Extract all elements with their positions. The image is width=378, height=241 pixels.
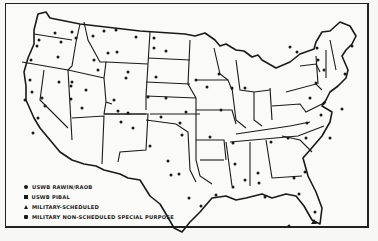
station-dot [304, 171, 307, 174]
station-dot [107, 52, 110, 55]
station-dot [315, 82, 318, 85]
station-dot [329, 137, 332, 140]
map-legend: USWB RAWIN/RAOB USWB PIBAL MILITARY-SCHE… [24, 182, 174, 222]
station-dot [200, 205, 203, 208]
station-dot [37, 117, 40, 120]
station-dot [71, 81, 74, 84]
station-dot [209, 136, 212, 139]
map-page: USWB RAWIN/RAOB USWB PIBAL MILITARY-SCHE… [0, 0, 378, 241]
station-dot [44, 105, 47, 108]
station-dot [287, 137, 290, 140]
circle-station-icon [24, 185, 28, 189]
station-dot [117, 110, 120, 113]
station-dot [323, 102, 326, 105]
station-dot [220, 109, 223, 112]
station-dot [41, 97, 44, 100]
station-dot [153, 47, 156, 50]
station-dot [153, 37, 156, 40]
station-dot [167, 160, 170, 163]
station-dot [127, 71, 130, 74]
station-dot [257, 172, 260, 175]
station-dot [206, 86, 209, 89]
station-dot [178, 173, 181, 176]
station-dot [258, 182, 261, 185]
station-dot [85, 89, 88, 92]
station-dot [132, 127, 135, 130]
station-dot [125, 77, 128, 80]
station-dot [135, 36, 138, 39]
station-dot [341, 108, 344, 111]
station-dot [351, 45, 354, 48]
station-dot [188, 197, 191, 200]
station-dot [31, 91, 34, 94]
legend-item-military-scheduled: MILITARY-SCHEDULED [24, 202, 174, 212]
station-dot [70, 85, 73, 88]
station-dot [231, 87, 234, 90]
station-dot [323, 69, 326, 72]
station-dot [58, 81, 61, 84]
station-dot [160, 116, 163, 119]
station-dot [179, 122, 182, 125]
station-dot [149, 145, 152, 148]
station-dot [116, 51, 119, 54]
station-dot [155, 76, 158, 79]
station-dot [103, 30, 106, 33]
station-dot [170, 174, 173, 177]
station-dot [115, 29, 118, 32]
hexagon-station-icon [24, 215, 28, 219]
station-dot [232, 186, 235, 189]
station-dot [232, 142, 235, 145]
legend-label: MILITARY-SCHEDULED [32, 202, 99, 212]
station-dot [305, 137, 308, 140]
station-dot [75, 37, 78, 40]
legend-label: USWB RAWIN/RAOB [32, 182, 92, 192]
station-dot [289, 46, 292, 49]
legend-label: MILITARY NON-SCHEDULED SPECIAL PURPOSE [32, 212, 174, 222]
station-dot [81, 107, 84, 110]
square-station-icon [24, 195, 28, 199]
station-dot [181, 134, 184, 137]
legend-label: USWB PIBAL [32, 192, 70, 202]
station-dot [24, 99, 27, 102]
station-dot [270, 141, 273, 144]
station-dot [309, 97, 312, 100]
station-dot [97, 69, 100, 72]
station-dot [57, 56, 60, 59]
station-dot [234, 163, 237, 166]
station-dot [264, 196, 267, 199]
station-dot [344, 73, 347, 76]
station-dot [127, 112, 130, 115]
station-dot [36, 45, 39, 48]
station-dot [147, 96, 150, 99]
station-dot [120, 121, 123, 124]
station-dot [244, 179, 247, 182]
station-dot [113, 99, 116, 102]
station-dot [54, 32, 57, 35]
triangle-station-icon [24, 205, 28, 209]
station-dot [32, 132, 35, 135]
legend-item-pibal: USWB PIBAL [24, 192, 174, 202]
legend-item-rawin: USWB RAWIN/RAOB [24, 182, 174, 192]
station-dot [38, 39, 41, 42]
legend-item-military-special: MILITARY NON-SCHEDULED SPECIAL PURPOSE [24, 212, 174, 222]
station-dot [165, 50, 168, 53]
station-dot [316, 47, 319, 50]
station-dot [218, 73, 221, 76]
station-dot [92, 35, 95, 38]
station-dot [29, 79, 32, 82]
station-dot [195, 79, 198, 82]
station-dot [165, 97, 168, 100]
station-dot [244, 87, 247, 90]
station-dot [185, 111, 188, 114]
station-dot [60, 41, 63, 44]
station-dot [293, 177, 296, 180]
station-dot [71, 31, 74, 34]
station-dot [215, 194, 218, 197]
station-dot [70, 98, 73, 101]
station-dot [30, 59, 33, 62]
station-dot [298, 193, 301, 196]
station-dot [317, 59, 320, 62]
station-dot [296, 51, 299, 54]
station-dot [306, 122, 309, 125]
station-dot [93, 59, 96, 62]
